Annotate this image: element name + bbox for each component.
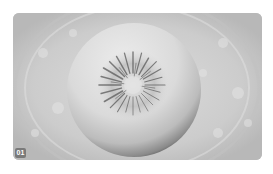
photo-panel: 01 — [13, 13, 262, 160]
droplet-image — [13, 13, 262, 160]
panel-label: 01 — [15, 148, 26, 158]
